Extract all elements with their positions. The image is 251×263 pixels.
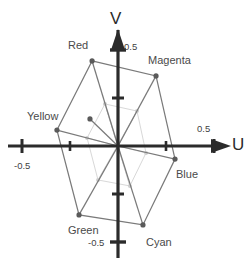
v-axis-tick-label-negative: -0.5 [88,238,104,248]
spoke-yellow [57,130,118,146]
data-point-cyan [140,222,145,227]
spoke-cyan [118,146,143,225]
data-point-yellow [54,127,59,132]
point-label-yellow: Yellow [27,111,58,122]
v-axis-arrowhead [111,29,125,50]
point-label-magenta: Magenta [148,55,191,66]
v-axis-label: V [110,10,121,27]
data-point-mid-vertex [87,116,92,121]
data-point-magenta [153,73,158,78]
point-layer [54,58,177,227]
data-point-red [89,58,94,63]
axes-layer [8,29,231,258]
v-axis-tick-label-positive: 0.5 [124,42,137,52]
plot-canvas [0,0,251,263]
u-axis-label: U [232,136,244,153]
point-label-blue: Blue [176,169,198,180]
data-point-green [76,212,81,217]
u-axis-tick-label-negative: -0.5 [14,161,30,171]
point-label-red: Red [68,40,88,51]
point-label-green: Green [68,225,99,236]
uv-vector-plot-figure: V U 0.5 -0.5 -0.5 0.5 Red Magenta Yellow… [0,0,251,263]
u-axis-tick-label-positive: 0.5 [197,124,210,134]
data-point-blue [172,156,177,161]
spoke-green [79,146,118,215]
spoke-magenta [118,76,156,146]
outer-hexagon [57,61,175,225]
outer-polygon-layer [57,61,175,225]
point-label-cyan: Cyan [146,237,172,248]
